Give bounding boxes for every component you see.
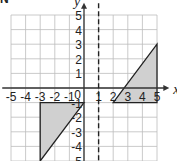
y-tick-label: -3: [71, 126, 82, 140]
y-axis-arrow-icon: [81, 3, 87, 9]
x-tick-label: -4: [20, 90, 31, 104]
y-tick-label: 2: [75, 53, 82, 67]
x-tick-label: 5: [154, 90, 161, 104]
x-tick-label: -3: [35, 90, 46, 104]
x-tick-label: 3: [124, 90, 131, 104]
y-tick-label: 4: [75, 24, 82, 38]
x-tick-label: 2: [110, 90, 117, 104]
x-tick-label: -5: [6, 90, 17, 104]
x-tick-label: -2: [49, 90, 60, 104]
y-tick-label: 1: [75, 67, 82, 81]
y-tick-label: 3: [75, 38, 82, 52]
y-tick-label: -5: [71, 155, 82, 161]
x-axis-arrow-icon: [163, 85, 169, 91]
y-axis-label: y: [72, 0, 81, 9]
x-tick-label: 1: [95, 90, 102, 104]
x-axis-label: x: [172, 82, 177, 97]
corner-label: N: [0, 0, 9, 6]
y-tick-label: -4: [71, 140, 82, 154]
coordinate-grid: -5-4-3-2-11234554321-1-2-3-4-50xyN: [0, 0, 177, 161]
origin-label: 0: [74, 88, 81, 102]
y-tick-label: 5: [75, 9, 82, 23]
x-tick-label: 4: [139, 90, 146, 104]
y-tick-label: -2: [71, 111, 82, 125]
